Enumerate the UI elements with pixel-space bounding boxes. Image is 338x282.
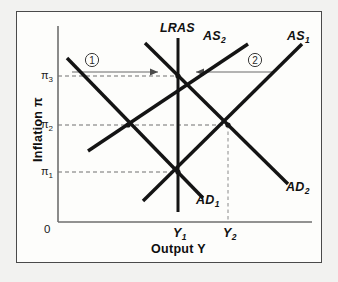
y-tick-label-pi1: π1	[41, 166, 53, 177]
curve-label-as1: AS1	[287, 30, 310, 43]
step-1-number: 1	[85, 56, 99, 66]
curve-as1	[143, 44, 302, 201]
curve-label-ad1: AD1	[196, 194, 219, 207]
shift-arrow-1-head	[150, 69, 158, 76]
curve-label-lras: LRAS	[160, 22, 195, 35]
curve-as2	[88, 44, 248, 151]
equilibrium-pi1-y1	[175, 169, 180, 174]
figure-root: LRAS AS2 AS1 AD1 AD2 π3 π2 π1 Y1 Y2 0 Ou…	[0, 0, 338, 282]
x-tick-label-y2: Y2	[223, 227, 236, 240]
equilibrium-pi2-left	[125, 122, 130, 127]
equilibrium-pi2-y2	[225, 122, 230, 127]
y-axis-title: Inflation π	[32, 97, 45, 162]
x-axis-title: Output Y	[151, 243, 206, 256]
step-2-number: 2	[248, 56, 262, 66]
origin-label: 0	[44, 224, 50, 236]
curve-label-as2: AS2	[203, 30, 226, 43]
x-tick-label-y1: Y1	[173, 227, 186, 240]
y-tick-label-pi3: π3	[41, 70, 53, 81]
curve-label-ad2: AD2	[286, 181, 309, 194]
equilibrium-pi3-y1	[175, 73, 180, 78]
